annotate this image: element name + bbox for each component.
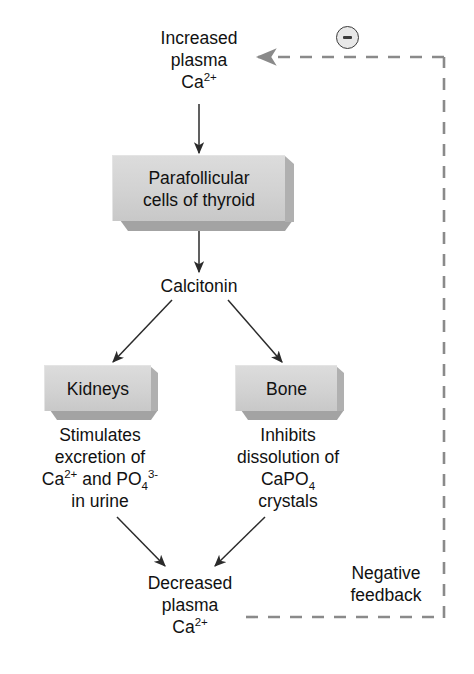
kidneys-box: Kidneys	[44, 365, 151, 411]
calcitonin-label: Calcitonin	[129, 275, 269, 297]
kidneys-box-shadow	[50, 410, 158, 420]
decreased-plasma-line-2: plasma	[110, 594, 270, 616]
arrow-bone-effect-to-decreased	[215, 517, 265, 566]
kidney-effect-po-charge: 3-	[148, 468, 158, 480]
negative-feedback-label: Negative feedback	[338, 562, 434, 606]
increased-plasma-ca-charge: 2+	[204, 71, 217, 83]
increased-plasma-ca: Ca	[181, 72, 203, 92]
bone-effect-line-3: CaPO4	[200, 468, 376, 490]
kidneys-box-side	[150, 366, 158, 411]
decreased-plasma-ca: Ca	[172, 617, 194, 637]
node-bone-effect: Inhibits dissolution of CaPO4 crystals	[200, 424, 376, 512]
bone-box: Bone	[235, 365, 337, 411]
bone-effect-capo: CaPO	[261, 469, 309, 489]
bone-label: Bone	[266, 378, 307, 400]
decreased-plasma-line-1: Decreased	[110, 572, 270, 594]
kidney-effect-line-4: in urine	[12, 490, 188, 512]
decreased-plasma-ca-charge: 2+	[195, 616, 208, 628]
kidney-effect-ca: Ca	[42, 469, 64, 489]
parafollicular-cells-box: Parafollicular cells of thyroid	[112, 155, 285, 221]
kidney-effect-line-2: excretion of	[12, 446, 188, 468]
bone-effect-line-1: Inhibits	[200, 424, 376, 446]
negative-feedback-line-1: Negative	[338, 562, 434, 584]
kidneys-label: Kidneys	[67, 378, 129, 400]
minus-sign-icon	[336, 26, 359, 49]
parafollicular-line-2: cells of thyroid	[143, 189, 255, 211]
node-decreased-plasma-calcium: Decreased plasma Ca2+	[110, 572, 270, 638]
parafollicular-box-shadow	[120, 220, 293, 231]
bone-box-side	[336, 366, 344, 411]
node-kidney-effect: Stimulates excretion of Ca2+ and PO43- i…	[12, 424, 188, 512]
decreased-plasma-line-3: Ca2+	[110, 616, 270, 638]
kidney-effect-ca-charge: 2+	[64, 468, 77, 480]
kidney-effect-po-count: 4	[142, 480, 148, 492]
arrow-kidney-effect-to-decreased	[117, 517, 165, 566]
arrow-calcitonin-to-bone	[228, 300, 282, 362]
increased-plasma-line-2: plasma	[119, 49, 279, 71]
increased-plasma-line-1: Increased	[119, 27, 279, 49]
kidney-effect-line-1: Stimulates	[12, 424, 188, 446]
kidney-effect-and-po: and PO	[77, 469, 141, 489]
increased-plasma-line-3: Ca2+	[119, 71, 279, 93]
bone-box-shadow	[241, 410, 344, 420]
minus-bar	[343, 36, 352, 38]
parafollicular-box-side	[285, 156, 294, 222]
negative-feedback-line-2: feedback	[338, 584, 434, 606]
diagram-canvas: Increased plasma Ca2+ Parafollicular cel…	[0, 0, 474, 674]
kidney-effect-line-3: Ca2+ and PO43-	[12, 468, 188, 490]
node-increased-plasma-calcium: Increased plasma Ca2+	[119, 27, 279, 93]
node-calcitonin: Calcitonin	[129, 275, 269, 297]
bone-effect-line-2: dissolution of	[200, 446, 376, 468]
parafollicular-line-1: Parafollicular	[143, 167, 255, 189]
arrow-calcitonin-to-kidneys	[113, 300, 172, 362]
cut-off-caption	[0, 658, 474, 674]
bone-effect-line-4: crystals	[200, 490, 376, 512]
